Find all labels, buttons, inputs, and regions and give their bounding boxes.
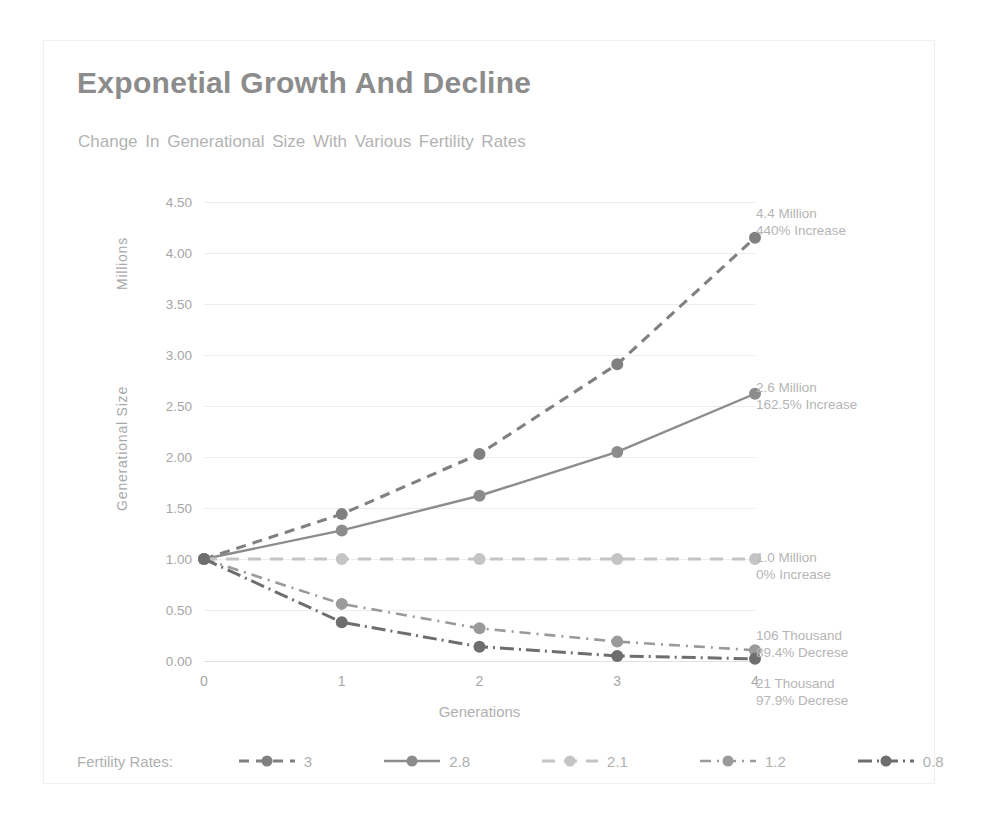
legend-swatch bbox=[700, 754, 756, 768]
data-point bbox=[474, 553, 486, 565]
x-axis-tick-label: 0 bbox=[200, 673, 208, 689]
legend-item-2.8[interactable]: 2.8 bbox=[384, 753, 470, 770]
annotation: 2.6 Million162.5% Increase bbox=[756, 379, 857, 414]
data-point bbox=[474, 490, 486, 502]
data-point bbox=[474, 448, 486, 460]
data-point bbox=[336, 553, 348, 565]
y-axis-tick-label: 2.00 bbox=[166, 450, 192, 465]
data-point bbox=[474, 622, 486, 634]
chart-card: Exponetial Growth And Decline Change In … bbox=[43, 40, 935, 784]
y-axis-tick-label: 0.00 bbox=[166, 654, 192, 669]
y-axis-tick-label: 3.00 bbox=[166, 348, 192, 363]
data-point bbox=[336, 598, 348, 610]
annotation-change: 0% Increase bbox=[756, 566, 831, 583]
y-axis-tick-label: 4.00 bbox=[166, 246, 192, 261]
chart-subtitle: Change In Generational Size With Various… bbox=[78, 132, 526, 152]
annotation: 21 Thousand97.9% Decrese bbox=[756, 675, 848, 710]
annotation-value: 1.0 Million bbox=[756, 550, 817, 565]
chart-title: Exponetial Growth And Decline bbox=[77, 66, 531, 100]
y-axis-tick-label: 4.50 bbox=[166, 195, 192, 210]
legend-label: 1.2 bbox=[765, 753, 786, 770]
annotation: 4.4 Million440% Increase bbox=[756, 205, 846, 240]
data-point bbox=[611, 650, 623, 662]
legend-swatch bbox=[858, 754, 914, 768]
y-axis-tick-label: 2.50 bbox=[166, 399, 192, 414]
legend-label: 2.8 bbox=[449, 753, 470, 770]
annotation-change: 97.9% Decrese bbox=[756, 692, 848, 709]
data-point bbox=[611, 636, 623, 648]
legend-item-3[interactable]: 3 bbox=[239, 753, 312, 770]
legend-swatch bbox=[384, 754, 440, 768]
y-axis-tick-label: 0.50 bbox=[166, 603, 192, 618]
legend-title: Fertility Rates: bbox=[77, 753, 173, 770]
y-axis-units-label: Millions bbox=[114, 237, 130, 290]
legend-label: 3 bbox=[304, 753, 312, 770]
annotation-value: 4.4 Million bbox=[756, 206, 817, 221]
x-axis-tick-label: 3 bbox=[613, 673, 621, 689]
data-point bbox=[336, 524, 348, 536]
legend-swatch bbox=[239, 754, 295, 768]
series-line-1.2 bbox=[204, 559, 755, 650]
x-axis-title: Generations bbox=[439, 703, 521, 720]
x-axis-tick-label: 2 bbox=[476, 673, 484, 689]
data-point bbox=[336, 508, 348, 520]
legend-label: 0.8 bbox=[923, 753, 944, 770]
gridline bbox=[204, 661, 755, 662]
annotation-change: 440% Increase bbox=[756, 222, 846, 239]
annotation-change: 162.5% Increase bbox=[756, 396, 857, 413]
data-point bbox=[198, 553, 210, 565]
y-axis-tick-label: 1.50 bbox=[166, 501, 192, 516]
legend-item-1.2[interactable]: 1.2 bbox=[700, 753, 786, 770]
series-line-2.8 bbox=[204, 394, 755, 559]
annotation-value: 2.6 Million bbox=[756, 380, 817, 395]
annotation-value: 106 Thousand bbox=[756, 628, 842, 643]
y-axis-tick-label: 3.50 bbox=[166, 297, 192, 312]
legend-items: 32.82.11.20.8 bbox=[239, 753, 985, 770]
data-point bbox=[611, 446, 623, 458]
plot-area: 0.000.501.001.502.002.503.003.504.004.50… bbox=[204, 202, 755, 661]
annotation-value: 21 Thousand bbox=[756, 676, 835, 691]
x-axis-tick-label: 1 bbox=[338, 673, 346, 689]
series-line-3 bbox=[204, 238, 755, 559]
y-axis-title: Generational Size bbox=[114, 386, 130, 511]
data-point bbox=[474, 641, 486, 653]
legend: Fertility Rates: 32.82.11.20.8 bbox=[77, 741, 907, 781]
y-axis-tick-label: 1.00 bbox=[166, 552, 192, 567]
data-point bbox=[611, 358, 623, 370]
legend-label: 2.1 bbox=[607, 753, 628, 770]
annotation: 106 Thousand89.4% Decrese bbox=[756, 627, 848, 662]
data-point bbox=[611, 553, 623, 565]
legend-swatch bbox=[542, 754, 598, 768]
series-layer bbox=[204, 202, 755, 661]
legend-item-2.1[interactable]: 2.1 bbox=[542, 753, 628, 770]
annotation: 1.0 Million0% Increase bbox=[756, 549, 831, 584]
data-point bbox=[336, 616, 348, 628]
legend-item-0.8[interactable]: 0.8 bbox=[858, 753, 944, 770]
annotation-change: 89.4% Decrese bbox=[756, 644, 848, 661]
